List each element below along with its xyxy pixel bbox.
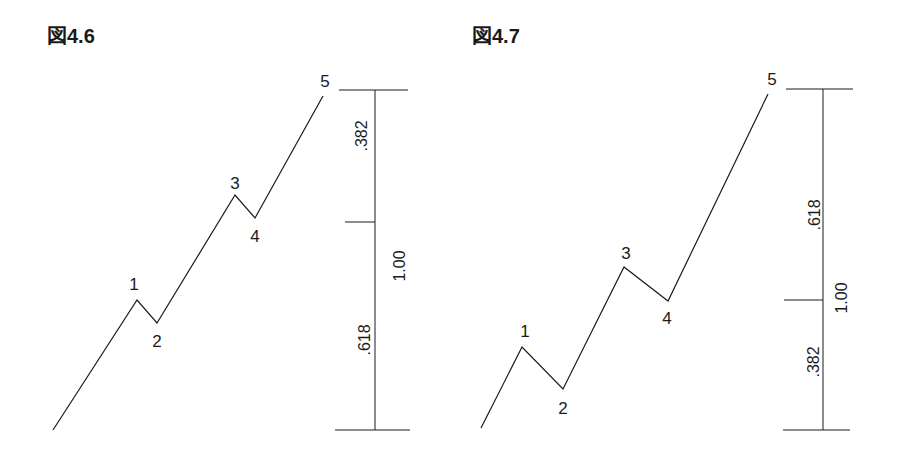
wave-label-3: 3	[230, 174, 239, 193]
wave-line-4-6	[53, 96, 323, 430]
wave-label-4: 4	[250, 227, 259, 246]
ratio-label-total: 1.00	[833, 282, 850, 313]
wave-label-3: 3	[621, 244, 630, 263]
ratio-label-upper: .618	[806, 199, 823, 230]
wave-label-1: 1	[520, 322, 529, 341]
ratio-label-total: 1.00	[391, 250, 408, 281]
ratio-label-upper: .382	[353, 120, 370, 151]
figure-4-7: 1 2 3 4 5 .618 .382 1.00	[481, 70, 853, 430]
wave-label-2: 2	[558, 399, 567, 418]
fibonacci-scale-4-7	[783, 89, 853, 430]
wave-label-4: 4	[662, 309, 671, 328]
ratio-label-lower: .618	[356, 324, 373, 355]
wave-label-2: 2	[152, 332, 161, 351]
wave-label-5: 5	[767, 70, 776, 89]
ratio-label-lower: .382	[805, 346, 822, 377]
wave-label-1: 1	[129, 275, 138, 294]
wave-label-5: 5	[320, 72, 329, 91]
figure-4-6: 1 2 3 4 5 .382 .618 1.00	[53, 72, 410, 430]
wave-diagrams: 1 2 3 4 5 .382 .618 1.00 1 2 3 4 5 .618 …	[0, 0, 902, 465]
